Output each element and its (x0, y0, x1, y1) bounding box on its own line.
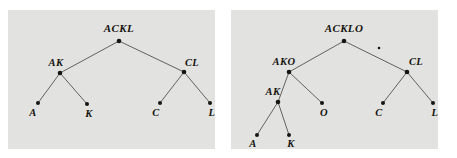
tree-node-root[interactable] (117, 39, 122, 44)
tree-diagram-left: ACKLAKCLAKCL (8, 10, 215, 149)
tree-node-l[interactable] (431, 101, 435, 105)
tree-node-label-k: K (84, 108, 93, 119)
tree-node-label-c: C (375, 107, 383, 118)
tree-node-label-a: A (28, 107, 36, 118)
tree-edge-root-cl (344, 41, 407, 72)
tree-node-label-ako: AKO (272, 56, 296, 67)
tree-node-label-ak: AK (265, 86, 281, 97)
tree-node-label-o: O (320, 107, 328, 118)
tree-edge-cl-c (383, 72, 407, 103)
tree-edge-cl-l (407, 72, 433, 103)
tree-edge-ako-o (289, 72, 322, 103)
tree-node-o[interactable] (320, 101, 324, 105)
tree-diagram-right: ACKLOAKOCLAKOCLAK (231, 10, 438, 149)
tree-node-label-k: K (286, 138, 295, 149)
tree-edge-ak-k (60, 73, 87, 104)
tree-node-label-cl: CL (409, 56, 423, 67)
tree-node-ako[interactable] (287, 70, 292, 75)
tree-panel-right: ACKLOAKOCLAKOCLAK (231, 10, 438, 149)
tree-node-l[interactable] (208, 101, 212, 105)
tree-edge-ak-a (38, 73, 60, 103)
tree-node-label-root: ACKLO (324, 22, 364, 34)
tree-node-c[interactable] (381, 101, 385, 105)
tree-node-cl[interactable] (182, 70, 187, 75)
tree-node-label-l: L (208, 107, 215, 118)
figure-container: ACKLAKCLAKCL ACKLOAKOCLAKOCLAK (0, 0, 457, 158)
tree-node-a[interactable] (255, 133, 259, 137)
tree-node-a[interactable] (36, 101, 40, 105)
tree-edge-cl-c (160, 72, 184, 103)
tree-node-label-cl: CL (185, 57, 199, 68)
tree-node-cl[interactable] (405, 70, 410, 75)
tree-node-ak[interactable] (58, 71, 63, 76)
tree-node-label-l: L (431, 107, 438, 118)
tree-edge-ak-k (278, 102, 289, 135)
tree-panel-left: ACKLAKCLAKCL (8, 10, 215, 149)
tree-node-ak[interactable] (276, 100, 281, 105)
tree-node-k[interactable] (287, 133, 291, 137)
tree-edge-root-ako (289, 41, 344, 72)
tree-edge-root-cl (119, 41, 184, 72)
tree-node-label-c: C (152, 107, 160, 118)
tree-node-label-ak: AK (48, 57, 64, 68)
tree-node-label-a: A (248, 138, 256, 149)
tree-node-root[interactable] (342, 39, 347, 44)
tree-node-label-root: ACKL (103, 22, 134, 34)
stray-dot-1 (378, 47, 381, 50)
tree-node-k[interactable] (85, 102, 89, 106)
tree-edge-root-ak (60, 41, 119, 73)
tree-edge-cl-l (184, 72, 210, 103)
tree-node-c[interactable] (158, 101, 162, 105)
tree-edge-ak-a (257, 102, 278, 135)
